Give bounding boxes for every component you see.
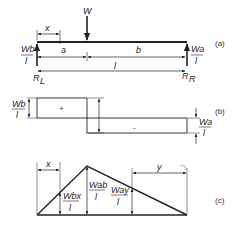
right-shear-num: Wa — [199, 117, 212, 127]
x-label-a: x — [44, 23, 50, 33]
left-support-label: R — [33, 73, 40, 83]
panel-c-moment: x Wbx l Wab l Way l y (c) — [37, 159, 225, 215]
left-shear-den: l — [16, 110, 19, 120]
moment-y-den: l — [117, 197, 120, 207]
l-label: l — [114, 61, 117, 71]
x-label-c: x — [45, 159, 51, 169]
y-label-c: y — [156, 162, 162, 172]
right-reaction-den: l — [195, 56, 198, 66]
a-label: a — [61, 45, 66, 55]
moment-max-num: Wab — [89, 180, 107, 190]
left-support-sub: L — [40, 76, 45, 86]
load-label: W — [83, 6, 93, 16]
left-reaction-den: l — [25, 56, 28, 66]
moment-x-num: Wbx — [63, 191, 82, 201]
beam-diagram: W x a b l Wb l Wa l R L R R (a) + - — [0, 0, 238, 231]
moment-x-den: l — [69, 203, 72, 213]
panel-c-tag: (c) — [215, 196, 225, 205]
right-support-sub: R — [189, 74, 196, 84]
right-shear-den: l — [203, 128, 206, 138]
moment-max-den: l — [95, 192, 98, 202]
right-support-label: R — [182, 71, 189, 81]
panel-a-loading: W x a b l Wb l Wa l R L R R (a) — [21, 6, 225, 86]
left-shear-num: Wb — [12, 99, 26, 109]
panel-b-tag: (b) — [215, 107, 225, 116]
panel-a-tag: (a) — [215, 39, 225, 48]
negative-shear-block — [87, 118, 187, 133]
positive-sign: + — [59, 104, 64, 113]
left-reaction-num: Wb — [21, 44, 35, 54]
panel-b-shear: + - Wb l Wa l (b) — [12, 98, 225, 144]
negative-sign: - — [133, 123, 136, 132]
right-reaction-num: Wa — [191, 44, 204, 54]
moment-y-num: Way — [111, 185, 129, 195]
b-label: b — [136, 45, 141, 55]
